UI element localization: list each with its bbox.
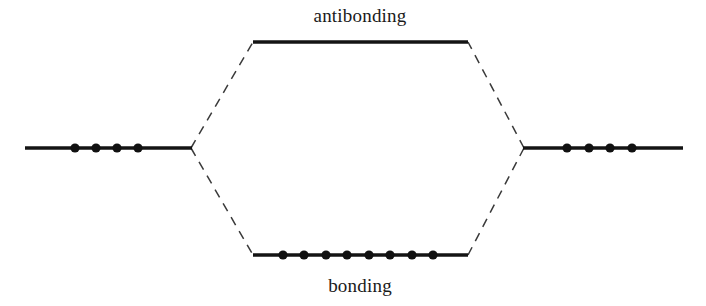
diagram-canvas: antibonding bonding [0, 0, 706, 306]
electron-dot [133, 143, 142, 152]
electron-dot [385, 250, 394, 259]
electron-dot [407, 250, 416, 259]
electron-dot [364, 250, 373, 259]
antibonding-label: antibonding [314, 5, 407, 26]
electron-dot [321, 250, 330, 259]
electron-dot [428, 250, 437, 259]
electron-dot [584, 143, 593, 152]
electron-dot [627, 143, 636, 152]
electrons-group [70, 143, 636, 259]
electron-dot [91, 143, 100, 152]
electron-dot [562, 143, 571, 152]
correlation-line-left-antibonding [191, 42, 253, 148]
bonding-label: bonding [328, 275, 392, 296]
electron-dot [70, 143, 79, 152]
correlation-line-right-bonding [468, 148, 524, 255]
electron-dot [299, 250, 308, 259]
correlation-line-left-bonding [191, 148, 253, 255]
electron-dot [605, 143, 614, 152]
correlation-line-right-antibonding [468, 42, 524, 148]
mo-energy-diagram: antibonding bonding [0, 0, 706, 306]
correlation-lines-group [191, 42, 524, 255]
electron-dot [112, 143, 121, 152]
electron-dot [342, 250, 351, 259]
energy-levels-group [25, 42, 683, 255]
electron-dot [278, 250, 287, 259]
